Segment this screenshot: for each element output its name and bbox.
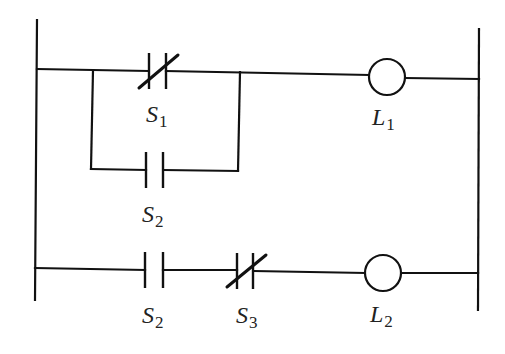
ladder-diagram: S1 S2 L1 S2 — [0, 0, 505, 354]
rung-1-wire-right — [405, 78, 479, 79]
rung-2: S2 S3 L2 — [35, 252, 478, 332]
l2-coil-icon — [365, 255, 401, 291]
right-power-rail — [478, 29, 479, 310]
s2-parallel-label: S2 — [142, 201, 164, 231]
s2-normally-open-contact-icon — [145, 252, 163, 288]
rung-1: S1 S2 L1 — [37, 53, 479, 231]
s3-label: S3 — [236, 302, 258, 332]
s2-rung2-label: S2 — [142, 302, 164, 332]
l1-label: L1 — [371, 104, 395, 134]
s2-normally-open-contact-icon — [146, 152, 163, 188]
rung-2-wire-left — [35, 268, 145, 270]
l2-label: L2 — [369, 301, 393, 331]
left-power-rail — [35, 20, 37, 300]
s1-label: S1 — [146, 101, 168, 131]
rung-1-wire-mid — [166, 71, 369, 75]
l1-coil-icon — [369, 59, 405, 95]
rung-2-wire-mid2 — [254, 271, 365, 273]
